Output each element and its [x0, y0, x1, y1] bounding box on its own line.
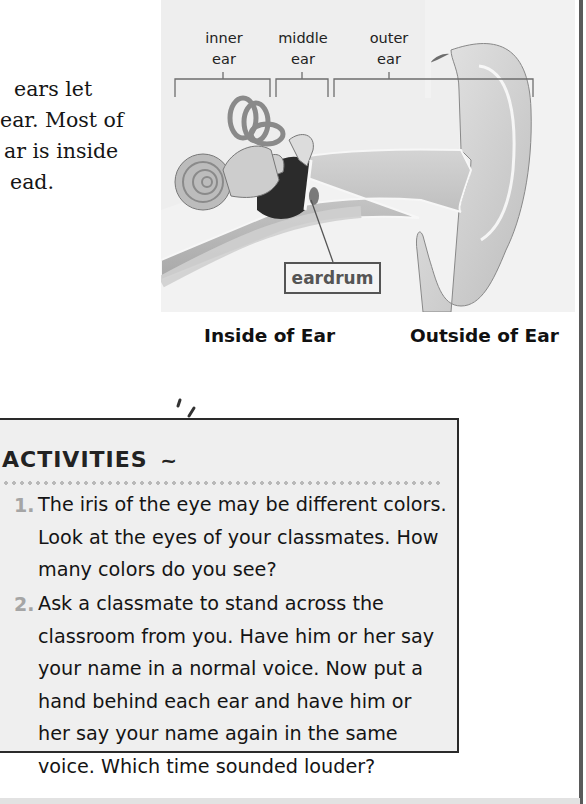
- middle-ear-label-line2: ear: [271, 49, 335, 70]
- activity-line: voice. Which time sounded louder?: [38, 751, 450, 784]
- page-border-right: [579, 0, 583, 804]
- intro-paragraph: ears let ear. Most of ar is inside ead.: [0, 74, 160, 198]
- ear-diagram: inner ear middle ear outer ear eardrum: [161, 0, 575, 312]
- intro-line: ar is inside: [0, 136, 160, 167]
- inner-ear-label-line1: inner: [200, 28, 248, 49]
- inner-ear-label-line2: ear: [200, 49, 248, 70]
- outer-ear-label-line2: ear: [363, 49, 415, 70]
- activity-number: 1.: [14, 489, 34, 522]
- intro-line: ead.: [0, 167, 160, 198]
- tilde-decoration-icon: ~: [160, 448, 178, 472]
- inner-ear-label: inner ear: [200, 28, 248, 70]
- activity-line: her say your name again in the same: [38, 718, 450, 751]
- middle-ear-label: middle ear: [271, 28, 335, 70]
- semicircular-canals-shape: [230, 98, 283, 144]
- activity-text: Ask a classmate to stand across the clas…: [38, 588, 450, 783]
- activity-line: Look at the eyes of your classmates. How: [38, 522, 450, 555]
- activity-line: your name in a normal voice. Now put a: [38, 653, 450, 686]
- outer-ear-label-line1: outer: [363, 28, 415, 49]
- outer-ear-label: outer ear: [363, 28, 415, 70]
- activity-number: 2.: [14, 588, 34, 621]
- activities-title-text: ACTIVITIES: [2, 447, 148, 472]
- activity-line: many colors do you see?: [38, 554, 450, 587]
- eardrum-label: eardrum: [284, 262, 381, 294]
- intro-line: ear. Most of: [0, 105, 160, 136]
- cochlea-shape: [175, 154, 231, 210]
- caption-inside-of-ear: Inside of Ear: [204, 325, 335, 346]
- activity-text: The iris of the eye may be different col…: [38, 489, 450, 587]
- activity-line: The iris of the eye may be different col…: [38, 489, 450, 522]
- dotted-divider: [2, 481, 442, 485]
- activity-line: Ask a classmate to stand across the: [38, 588, 450, 621]
- activity-line: classroom from you. Have him or her say: [38, 621, 450, 654]
- page-bottom-shade: [0, 798, 580, 804]
- intro-line: ears let: [0, 74, 160, 105]
- activities-title: ACTIVITIES ~: [2, 447, 178, 472]
- activities-box: ACTIVITIES ~ 1. The iris of the eye may …: [0, 418, 459, 753]
- caption-outside-of-ear: Outside of Ear: [410, 325, 559, 346]
- activity-line: hand behind each ear and have him or: [38, 686, 450, 719]
- middle-ear-label-line1: middle: [271, 28, 335, 49]
